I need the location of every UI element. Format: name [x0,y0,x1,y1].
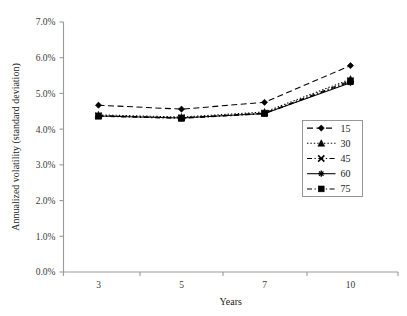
legend-label: 45 [341,153,351,164]
y-axis-ticks: 0.0%1.0%2.0%3.0%4.0%5.0%6.0%7.0% [36,17,64,277]
y-tick-label: 7.0% [36,17,56,27]
data-point-marker [347,62,353,68]
data-point-marker [261,99,267,105]
x-tick-label: 7 [262,280,267,290]
data-point-marker [348,79,354,85]
data-point-marker [178,106,184,112]
data-point-marker [262,111,268,117]
y-tick-label: 6.0% [36,53,56,63]
y-axis-title: Annualized volatility (standard deviatio… [10,63,22,230]
series-group [95,62,354,121]
x-tick-label: 10 [346,280,356,290]
y-tick-label: 1.0% [36,232,56,242]
data-point-marker [318,171,324,177]
x-axis-ticks: 35710 [64,272,399,290]
series-30 [95,76,354,120]
legend-label: 60 [341,168,351,179]
data-point-marker [95,102,101,108]
y-tick-label: 5.0% [36,89,56,99]
x-tick-label: 5 [179,280,184,290]
data-point-marker [96,113,102,119]
legend-label: 15 [341,123,351,134]
y-tick-label: 4.0% [36,125,56,135]
legend-label: 30 [341,138,351,149]
y-tick-label: 2.0% [36,196,56,206]
legend: 1530456075 [303,121,363,197]
x-axis-title: Years [220,296,242,307]
data-point-marker [179,116,185,122]
series-15 [95,62,353,112]
x-tick-label: 3 [96,280,101,290]
legend-label: 75 [341,183,351,194]
chart-canvas: 0.0%1.0%2.0%3.0%4.0%5.0%6.0%7.0%35710Yea… [0,0,407,316]
data-point-marker [318,186,324,192]
volatility-line-chart: 0.0%1.0%2.0%3.0%4.0%5.0%6.0%7.0%35710Yea… [0,0,407,316]
y-tick-label: 3.0% [36,160,56,170]
y-tick-label: 0.0% [36,267,56,277]
